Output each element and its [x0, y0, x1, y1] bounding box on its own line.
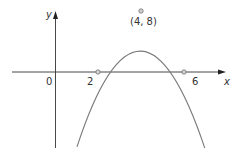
vertex-point [139, 9, 143, 13]
root-right-label: 6 [192, 76, 198, 87]
parabola-diagram: y x 0 2 6 (4, 8) [0, 0, 241, 159]
root-left-label: 2 [87, 76, 93, 87]
y-axis-label: y [45, 9, 53, 20]
x-axis-label: x [223, 76, 230, 87]
y-axis-arrow-icon [53, 11, 58, 19]
x-axis-arrow-icon [218, 70, 226, 75]
origin-label: 0 [46, 76, 52, 87]
root-right-point [182, 70, 186, 74]
vertex-label: (4, 8) [130, 16, 157, 27]
parabola-curve [77, 51, 207, 155]
root-left-point [96, 70, 100, 74]
